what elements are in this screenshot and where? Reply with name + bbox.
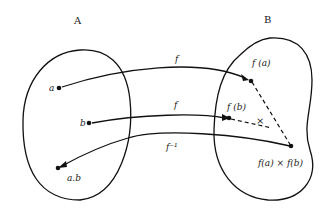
set-b-label: B [264, 14, 271, 25]
arrow-f-a [62, 67, 245, 87]
point-ab-label: a.b [67, 173, 81, 183]
point-fa-label: f (a) [251, 58, 271, 68]
point-a-label: a [49, 83, 54, 93]
arrow-f-a-label: f [174, 54, 180, 64]
point-fb [227, 116, 232, 121]
point-fafb-label: f(a) × f(b) [257, 158, 304, 168]
point-b-label: b [80, 118, 86, 128]
function-mapping-diagram: A B a b a.b f f (a) f f (b) f⁻¹ f(a) × f… [0, 0, 334, 217]
set-a-label: A [73, 15, 82, 26]
point-a [57, 86, 62, 91]
dashed-fb-to-op [231, 119, 272, 128]
arrow-f-b [92, 115, 225, 123]
arrowhead-f-a [241, 74, 249, 81]
arrow-f-b-label: f [173, 100, 179, 110]
operation-symbol: × [256, 115, 264, 126]
arrowhead-f-inverse [58, 161, 67, 168]
dashed-fa-to-product [252, 82, 291, 146]
point-fb-label: f (b) [226, 102, 246, 112]
arrow-f-inverse-label: f⁻¹ [165, 142, 178, 152]
point-b [87, 121, 92, 126]
